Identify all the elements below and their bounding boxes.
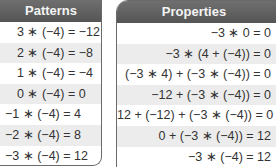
patterns-table: Patterns 3 ∗ (−4) = −12 2 ∗ (−4) = −8 1 … — [0, 0, 102, 166]
property-row: 12 + (−12) + (−3 ∗ (−4)) = 0 — [117, 105, 276, 126]
property-row: −12 + (−3 ∗ (−4)) = 0 — [117, 85, 276, 106]
property-row: 0 + (−3 ∗ (−4)) = 12 — [117, 126, 276, 147]
pattern-row: −1 ∗ (−4) = 4 — [0, 104, 101, 125]
pattern-row: 1 ∗ (−4) = −4 — [0, 63, 101, 84]
property-row: −3 ∗ (−4) = 12 — [117, 147, 276, 167]
property-row: (−3 ∗ 4) + (−3 ∗ (−4)) = 0 — [117, 64, 276, 85]
pattern-row: 0 ∗ (−4) = 0 — [0, 84, 101, 105]
pattern-row: −3 ∗ (−4) = 12 — [0, 146, 101, 166]
pattern-row: −2 ∗ (−4) = 8 — [0, 125, 101, 146]
property-row: −3 ∗ (4 + (−4)) = 0 — [117, 44, 276, 65]
properties-header: Properties — [117, 1, 276, 23]
patterns-header: Patterns — [0, 0, 101, 22]
pattern-row: 3 ∗ (−4) = −12 — [0, 22, 101, 43]
properties-table: Properties −3 ∗ 0 = 0 −3 ∗ (4 + (−4)) = … — [116, 0, 276, 167]
pattern-row: 2 ∗ (−4) = −8 — [0, 43, 101, 64]
property-row: −3 ∗ 0 = 0 — [117, 23, 276, 44]
